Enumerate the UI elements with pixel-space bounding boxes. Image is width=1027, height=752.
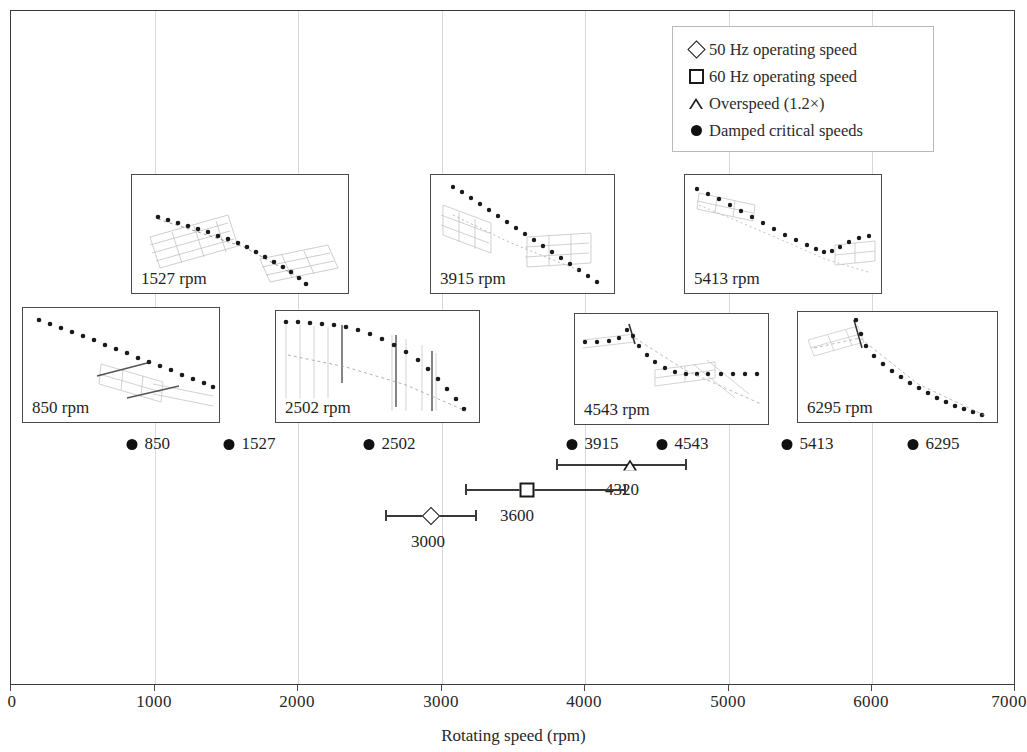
inset-label: 5413 rpm [692,269,762,289]
square-marker-icon [520,483,535,498]
mode-shape-inset-5413: 5413 rpm [684,174,882,294]
axis-tick-label: 7000 [991,692,1027,712]
axis-tick [871,685,872,691]
operating-speed-60hz-error-cap-low [465,484,467,495]
critical-speed-marker-5413: 5413 [782,434,834,454]
diamond-marker-icon [422,507,440,525]
legend-item-label: 50 Hz operating speed [709,40,857,60]
legend-item-overspeed: Overspeed (1.2×) [683,90,923,117]
legend-item-label: 60 Hz operating speed [709,67,857,87]
mode-shape-inset-4543: 4543 rpm [574,313,769,425]
critical-speed-label: 850 [145,434,171,454]
inset-label: 2502 rpm [283,398,353,418]
inset-label: 850 rpm [30,398,91,418]
axis-tick-label: 0 [8,692,17,712]
critical-speed-label: 2502 [382,434,416,454]
critical-speed-marker-6295: 6295 [908,434,960,454]
overspeed-error-bar [556,464,686,466]
triangle-marker-icon [623,460,637,471]
filled-circle-marker-icon [127,439,138,450]
legend-item-60hz: 60 Hz operating speed [683,63,923,90]
critical-speed-marker-4543: 4543 [657,434,709,454]
filled-circle-marker-icon [567,439,578,450]
diamond-marker-icon [683,43,709,56]
inset-label: 1527 rpm [139,269,209,289]
axis-tick [441,685,442,691]
filled-circle-marker-icon [224,439,235,450]
axis-tick [584,685,585,691]
axis-tick-label: 2000 [279,692,315,712]
legend-item-damped-critical: Damped critical speeds [683,117,923,144]
critical-speed-map-figure: 50 Hz operating speed 60 Hz operating sp… [0,0,1027,752]
mode-shape-inset-3915: 3915 rpm [430,174,615,294]
inset-label: 6295 rpm [805,398,875,418]
critical-speed-label: 1527 [242,434,276,454]
axis-tick [297,685,298,691]
square-marker-icon [683,69,709,84]
axis-tick-label: 6000 [853,692,889,712]
operating-speed-50hz-error-cap-high [475,510,477,521]
overspeed-error-cap-high [685,459,687,470]
operating-speed-50hz-error-cap-low [385,510,387,521]
filled-circle-marker-icon [782,439,793,450]
axis-tick-label: 3000 [423,692,459,712]
operating-speed-60hz-error-cap-high [624,484,626,495]
operating-speed-marker-3600 [520,483,535,498]
mode-shape-inset-850: 850 rpm [22,307,220,423]
legend-item-label: Damped critical speeds [709,121,863,141]
filled-circle-marker-icon [683,125,709,136]
critical-speed-label: 3915 [585,434,619,454]
triangle-marker-icon [683,98,709,109]
inset-label: 4543 rpm [582,400,652,420]
critical-speed-label: 4543 [675,434,709,454]
critical-speed-label: 6295 [926,434,960,454]
critical-speed-label: 5413 [800,434,834,454]
critical-speed-marker-3915: 3915 [567,434,619,454]
operating-speed-marker-3000 [425,510,438,523]
filled-circle-marker-icon [657,439,668,450]
mode-shape-inset-6295: 6295 rpm [797,311,998,423]
axis-tick-label: 1000 [136,692,172,712]
legend: 50 Hz operating speed 60 Hz operating sp… [672,26,934,152]
filled-circle-marker-icon [908,439,919,450]
axis-tick [728,685,729,691]
axis-tick-label: 5000 [710,692,746,712]
operating-speed-60hz-error-bar [465,489,625,491]
mode-shape-inset-2502: 2502 rpm [275,310,480,423]
axis-tick-label: 4000 [566,692,602,712]
critical-speed-marker-850: 850 [127,434,171,454]
axis-tick [10,685,11,691]
axis-tick [1014,685,1015,691]
operating-speed-50hz-label: 3000 [411,532,445,552]
legend-item-label: Overspeed (1.2×) [709,94,825,114]
overspeed-marker-4320 [623,460,637,471]
overspeed-error-cap-low [556,459,558,470]
operating-speed-60hz-label: 3600 [500,506,534,526]
mode-shape-inset-1527: 1527 rpm [131,174,349,294]
x-axis-title: Rotating speed (rpm) [0,726,1027,746]
inset-label: 3915 rpm [438,269,508,289]
filled-circle-marker-icon [364,439,375,450]
critical-speed-marker-1527: 1527 [224,434,276,454]
axis-tick [154,685,155,691]
critical-speed-marker-2502: 2502 [364,434,416,454]
legend-item-50hz: 50 Hz operating speed [683,36,923,63]
